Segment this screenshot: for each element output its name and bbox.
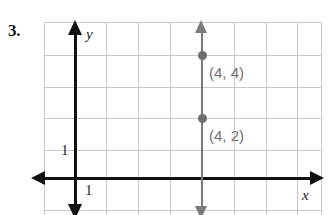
- gridline-horizontal: [44, 22, 322, 23]
- gridline-horizontal: [44, 55, 322, 56]
- gridline-horizontal: [44, 118, 322, 119]
- gridline-horizontal: [44, 150, 322, 151]
- x-axis-unit-label: 1: [85, 183, 93, 198]
- y-axis-label: y: [86, 27, 93, 42]
- plot-line-up-arrow-icon: [195, 20, 207, 33]
- x-axis: [42, 177, 314, 180]
- plot-line-down-arrow-icon: [195, 206, 207, 215]
- problem-number: 3.: [8, 22, 20, 39]
- x-axis-right-arrow-icon: [310, 171, 324, 185]
- data-point-4-4: [198, 51, 207, 60]
- gridline-horizontal: [44, 87, 322, 88]
- data-point-label-4-4: (4, 4): [209, 65, 244, 80]
- coordinate-grid: (4, 4) (4, 2) y x 1 1: [44, 22, 322, 215]
- y-axis: [74, 30, 77, 215]
- x-axis-left-arrow-icon: [31, 171, 45, 185]
- x-axis-label: x: [302, 188, 309, 203]
- y-axis-up-arrow-icon: [68, 20, 82, 35]
- y-axis-unit-label: 1: [61, 143, 69, 158]
- graph-figure: 3. (4, 4) (4, 2): [0, 0, 336, 215]
- gridline-horizontal: [44, 210, 322, 211]
- data-point-label-4-2: (4, 2): [209, 128, 244, 143]
- data-point-4-2: [198, 114, 207, 123]
- y-axis-down-arrow-icon: [68, 204, 82, 215]
